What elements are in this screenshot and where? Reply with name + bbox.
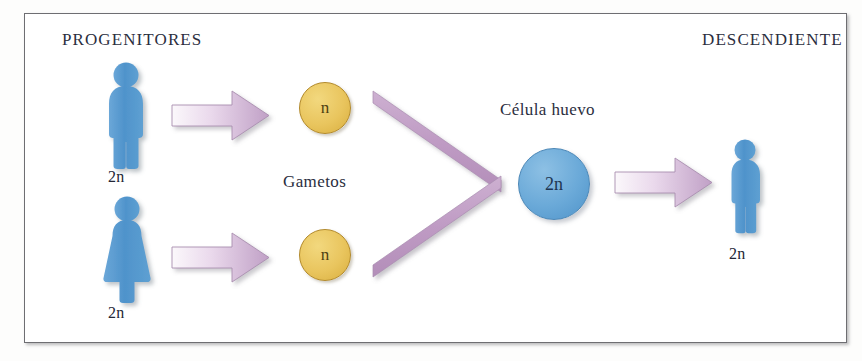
child-figure-icon: [725, 139, 771, 235]
male-gamete-circle: n: [299, 82, 351, 134]
male-figure-icon: [100, 62, 160, 170]
converging-chevron-icon: [370, 88, 515, 280]
right-arrow-icon: [170, 230, 272, 286]
male-gamete-label: n: [321, 98, 330, 118]
diagram-canvas: PROGENITORES 2n: [0, 0, 862, 361]
progenitores-title: PROGENITORES: [62, 30, 202, 50]
offspring-ploidy-label: 2n: [729, 245, 745, 263]
mother-ploidy-label: 2n: [108, 304, 124, 322]
celula-huevo-label: Célula huevo: [500, 100, 595, 120]
zygote-circle: 2n: [518, 148, 590, 220]
female-gamete-label: n: [321, 245, 330, 265]
right-arrow-icon: [170, 88, 272, 144]
female-figure-icon: [100, 196, 164, 304]
gametos-label: Gametos: [283, 172, 346, 192]
father-ploidy-label: 2n: [108, 168, 124, 186]
female-gamete-circle: n: [299, 229, 351, 281]
descendiente-title: DESCENDIENTE: [702, 30, 843, 50]
zygote-label: 2n: [545, 174, 563, 195]
right-arrow-icon: [613, 155, 715, 211]
